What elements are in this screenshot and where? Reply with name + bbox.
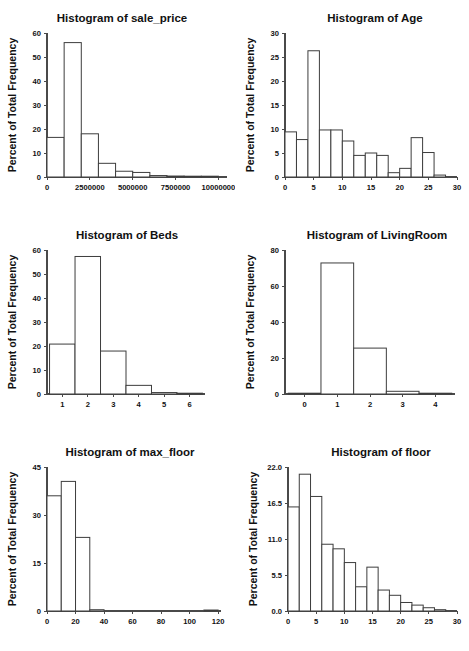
y-tick-label: 10 bbox=[271, 125, 279, 134]
histogram-bar bbox=[311, 496, 322, 611]
x-tick-label: 100 bbox=[183, 617, 196, 626]
histogram-bar bbox=[434, 610, 445, 611]
histogram-bar bbox=[378, 590, 389, 611]
histogram-bar bbox=[342, 141, 353, 177]
y-tick-label: 10 bbox=[33, 366, 41, 375]
y-tick-label: 40 bbox=[33, 77, 41, 86]
histogram-bar bbox=[299, 474, 310, 611]
histogram-bar bbox=[419, 393, 452, 394]
x-tick-label: 3 bbox=[111, 400, 115, 409]
y-axis-title: Percent of Total Frequency bbox=[6, 472, 18, 607]
histogram-bar bbox=[367, 567, 378, 611]
y-tick-label: 20 bbox=[271, 354, 279, 363]
y-tick-label: 22.0 bbox=[267, 463, 282, 472]
x-tick-label: 2500000 bbox=[75, 183, 105, 192]
y-tick-label: 40 bbox=[271, 318, 279, 327]
histogram-bar bbox=[356, 587, 367, 611]
y-tick-label: 0 bbox=[37, 607, 41, 616]
x-tick-label: 20 bbox=[396, 617, 404, 626]
histogram-bar bbox=[90, 610, 104, 611]
histogram-bar bbox=[400, 168, 411, 177]
y-axis-title: Percent of Total Frequency bbox=[247, 472, 259, 607]
x-tick-label: 20 bbox=[71, 617, 79, 626]
x-tick-label: 10 bbox=[338, 183, 346, 192]
histogram-panel-LivingRoom: Histogram of LivingRoomPercent of Total … bbox=[235, 217, 469, 434]
y-tick-label: 0 bbox=[37, 173, 41, 182]
histogram-bar bbox=[201, 176, 218, 177]
y-tick-label: 30 bbox=[33, 318, 41, 327]
y-tick-label: 20 bbox=[271, 77, 279, 86]
histogram-bar bbox=[75, 256, 100, 394]
x-tick-label: 20 bbox=[395, 183, 403, 192]
x-tick-label: 30 bbox=[453, 617, 461, 626]
y-tick-label: 0 bbox=[275, 390, 279, 399]
histogram-bar bbox=[81, 134, 98, 177]
x-tick-label: 0 bbox=[286, 617, 290, 626]
histogram-panel-sale_price: Histogram of sale_pricePercent of Total … bbox=[0, 0, 235, 217]
y-tick-label: 40 bbox=[33, 294, 41, 303]
x-tick-label: 0 bbox=[283, 183, 287, 192]
x-tick-label: 3 bbox=[401, 400, 405, 409]
x-tick-label: 15 bbox=[367, 183, 376, 192]
histogram-bar bbox=[167, 176, 184, 177]
x-tick-label: 120 bbox=[212, 617, 225, 626]
x-tick-label: 80 bbox=[157, 617, 165, 626]
x-tick-label: 40 bbox=[100, 617, 108, 626]
y-tick-label: 20 bbox=[33, 125, 41, 134]
x-tick-label: 0 bbox=[302, 400, 306, 409]
histogram-bar bbox=[354, 348, 387, 394]
y-tick-label: 0 bbox=[37, 390, 41, 399]
x-tick-label: 4 bbox=[137, 400, 142, 409]
histogram-bar bbox=[61, 481, 75, 611]
x-tick-label: 25 bbox=[425, 617, 434, 626]
histogram-bar bbox=[401, 602, 412, 611]
chart-title: Histogram of Beds bbox=[76, 229, 178, 241]
histogram-bar bbox=[354, 155, 365, 177]
x-tick-label: 30 bbox=[453, 183, 461, 192]
histogram-panel-Age: Histogram of AgePercent of Total Frequen… bbox=[235, 0, 469, 217]
histogram-bar bbox=[434, 175, 445, 177]
y-tick-label: 30 bbox=[33, 101, 41, 110]
histogram-bar bbox=[126, 385, 151, 394]
chart-title: Histogram of floor bbox=[331, 446, 431, 458]
chart-title: Histogram of max_floor bbox=[65, 446, 195, 458]
y-axis-title: Percent of Total Frequency bbox=[6, 255, 18, 390]
histogram-bar bbox=[389, 595, 400, 611]
histogram-panel-floor: Histogram of floorPercent of Total Frequ… bbox=[235, 434, 469, 651]
y-axis-title: Percent of Total Frequency bbox=[244, 38, 256, 173]
x-tick-label: 2 bbox=[368, 400, 372, 409]
histogram-panel-grid: Histogram of sale_pricePercent of Total … bbox=[0, 0, 469, 651]
y-tick-label: 0.0 bbox=[271, 607, 282, 616]
histogram-bar bbox=[296, 140, 307, 177]
histogram-bar bbox=[177, 393, 202, 394]
histogram-bar bbox=[76, 537, 90, 611]
x-tick-label: 25 bbox=[424, 183, 433, 192]
histogram-bar bbox=[184, 176, 201, 177]
x-tick-label: 2 bbox=[86, 400, 90, 409]
chart-title: Histogram of LivingRoom bbox=[307, 229, 448, 241]
y-tick-label: 30 bbox=[33, 511, 41, 520]
histogram-bar bbox=[331, 130, 342, 177]
x-tick-label: 1 bbox=[60, 400, 65, 409]
y-axis-title: Percent of Total Frequency bbox=[6, 38, 18, 173]
y-tick-label: 5.5 bbox=[271, 571, 282, 580]
x-tick-label: 15 bbox=[368, 617, 377, 626]
chart-title: Histogram of sale_price bbox=[57, 12, 187, 24]
x-tick-label: 5 bbox=[314, 617, 319, 626]
y-tick-label: 60 bbox=[33, 246, 41, 255]
x-tick-label: 4 bbox=[433, 400, 438, 409]
histogram-bar bbox=[204, 610, 218, 611]
histogram-bar bbox=[116, 171, 133, 177]
histogram-bar bbox=[50, 344, 75, 394]
histogram-bar bbox=[333, 549, 344, 611]
histogram-bar bbox=[344, 563, 355, 611]
y-tick-label: 25 bbox=[271, 53, 280, 62]
histogram-bar bbox=[47, 137, 64, 177]
x-tick-label: 10000000 bbox=[202, 183, 235, 192]
y-tick-label: 50 bbox=[33, 270, 41, 279]
histogram-bar bbox=[133, 172, 150, 177]
histogram-bar bbox=[319, 130, 330, 177]
y-tick-label: 15 bbox=[33, 559, 42, 568]
y-tick-label: 80 bbox=[271, 246, 279, 255]
histogram-bar bbox=[423, 153, 434, 177]
